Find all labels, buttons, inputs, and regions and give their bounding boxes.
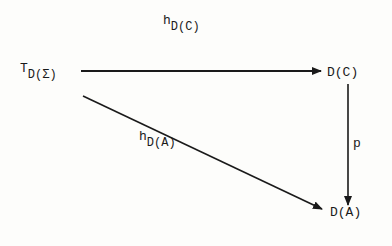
node-top-right: D(C) [327,66,358,79]
label-diagonal-main: h [139,129,147,144]
label-top-sub: D(C) [171,20,200,34]
label-top-main: h [163,13,171,28]
commutative-diagram: TD(Σ) D(C) D(A) hD(C) p hD(A) [0,0,392,246]
label-diagonal-arrow: hD(A) [139,130,176,143]
node-source: TD(Σ) [20,62,57,75]
node-source-sub: D(Σ) [28,68,57,82]
node-source-main: T [20,61,28,76]
arrow-diagonal [83,96,322,209]
label-top-arrow: hD(C) [163,14,200,27]
label-right-arrow: p [353,137,361,150]
node-bottom-right: D(A) [330,206,361,219]
label-diagonal-sub: D(A) [147,136,176,150]
